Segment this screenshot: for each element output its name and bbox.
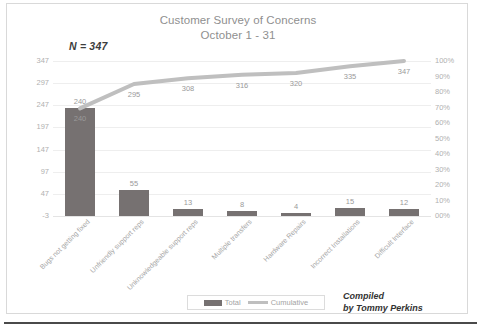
cumulative-data-label: 320 [269, 79, 323, 88]
y-axis-left-tick-label: 97 [15, 167, 49, 176]
y-axis-right-tick-label: 90% [435, 72, 475, 81]
chart-frame: Customer Survey of Concerns October 1 - … [6, 3, 468, 314]
chart-title: Customer Survey of Concerns [7, 13, 469, 28]
y-axis-right-tick-label: 40% [435, 149, 475, 158]
attribution-line-1: Compiled [343, 290, 423, 302]
y-axis-right-tick-label: 80% [435, 87, 475, 96]
legend-item-cumulative: Cumulative [248, 298, 309, 307]
y-axis-left-tick-label: -3 [15, 211, 49, 220]
cumulative-data-label: 316 [215, 81, 269, 90]
y-axis-right-tick-label: 70% [435, 103, 475, 112]
legend-label-total: Total [225, 298, 241, 307]
y-axis-right-tick-label: 30% [435, 165, 475, 174]
y-axis-right-tick-label: 100% [435, 56, 475, 65]
y-axis-left-tick-label: 197 [15, 122, 49, 131]
x-axis-category-label: Difficult Interface [373, 218, 415, 260]
legend-item-total: Total [204, 298, 241, 307]
cumulative-data-label: 335 [323, 72, 377, 81]
x-axis-category-label: Incorrect Installations [309, 218, 361, 270]
sample-size-annotation: N = 347 [69, 40, 107, 52]
bottom-rule-divider [4, 322, 477, 324]
y-axis-left: 3472972471971479747-3 [9, 61, 49, 216]
x-axis-category-label: Bugs not getting fixed [38, 218, 91, 271]
x-axis-category-label: Hardware Repairs [262, 218, 307, 263]
bar-data-label: 240 [53, 97, 107, 106]
attribution-line-2: by Tommy Perkins [343, 302, 423, 314]
legend-swatch-line-icon [248, 301, 268, 304]
y-axis-left-tick-label: 47 [15, 189, 49, 198]
cumulative-data-label: 295 [107, 90, 161, 99]
legend-label-cumulative: Cumulative [271, 298, 309, 307]
y-axis-left-tick-label: 347 [15, 56, 49, 65]
cumulative-data-label: 308 [161, 84, 215, 93]
cumulative-data-label: 347 [377, 67, 431, 76]
cumulative-data-label: 240 [53, 114, 107, 123]
x-axis-category-label: Unfriendly support reps [89, 218, 145, 274]
y-axis-right-tick-label: 50% [435, 134, 475, 143]
gridline [53, 216, 431, 217]
y-axis-left-tick-label: 147 [15, 145, 49, 154]
x-axis-category-label: Multiple transfers [210, 218, 253, 261]
y-axis-left-tick-label: 297 [15, 78, 49, 87]
chart-legend: Total Cumulative [187, 295, 325, 310]
legend-swatch-bar-icon [204, 300, 222, 306]
attribution-block: Compiled by Tommy Perkins [343, 290, 423, 314]
chart-title-block: Customer Survey of Concerns October 1 - … [7, 13, 469, 43]
x-axis-categories: Bugs not getting fixedUnfriendly support… [53, 218, 431, 290]
y-axis-right-tick-label: 00% [435, 211, 475, 220]
y-axis-right-tick-label: 60% [435, 118, 475, 127]
y-axis-left-tick-label: 247 [15, 100, 49, 109]
